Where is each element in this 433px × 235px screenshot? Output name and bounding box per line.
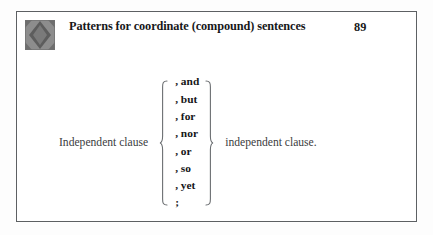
- list-item: , for: [175, 108, 199, 125]
- list-item: , yet: [175, 177, 199, 194]
- list-item: ;: [175, 194, 199, 211]
- list-item: , and: [175, 73, 199, 90]
- figure-header: Patterns for coordinate (compound) sente…: [17, 12, 416, 64]
- page-number: 89: [354, 20, 366, 35]
- left-clause-label: Independent clause: [59, 136, 148, 149]
- figure-box: Patterns for coordinate (compound) sente…: [16, 11, 417, 222]
- left-curly-brace-icon: [159, 79, 168, 207]
- right-curly-brace-icon: [205, 79, 214, 207]
- right-clause-label: independent clause.: [225, 136, 316, 149]
- list-item: , but: [175, 91, 199, 108]
- pattern-diagram: Independent clause , and , but , for , n…: [17, 64, 416, 221]
- conjunction-list: , and , but , for , nor , or , so , yet …: [168, 73, 205, 212]
- list-item: , nor: [175, 125, 199, 142]
- diamond-pattern-icon: [25, 20, 55, 50]
- list-item: , or: [175, 143, 199, 160]
- page-title: Patterns for coordinate (compound) sente…: [69, 19, 354, 33]
- list-item: , so: [175, 160, 199, 177]
